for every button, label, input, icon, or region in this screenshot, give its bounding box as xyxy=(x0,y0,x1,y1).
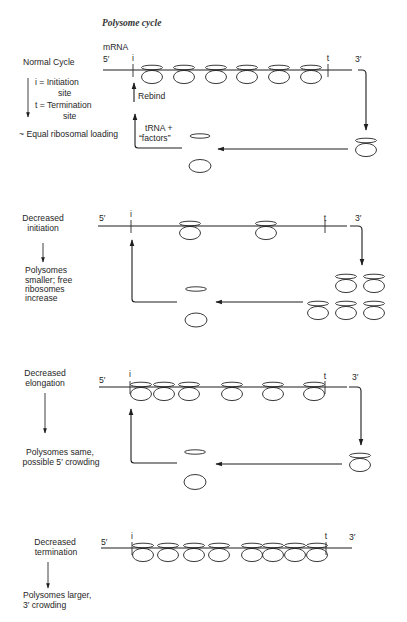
ribosome xyxy=(133,543,154,561)
ribosome xyxy=(307,543,328,561)
small-subunit xyxy=(301,65,322,70)
small-subunit xyxy=(269,65,290,70)
ribosome xyxy=(256,221,277,239)
outcome-line-2: 3′ crowding xyxy=(23,600,66,610)
ribosome xyxy=(263,382,284,400)
ribosome xyxy=(179,382,200,400)
condition-label: Normal Cycle xyxy=(23,57,75,67)
condition-label-cont: elongation xyxy=(25,378,65,388)
large-subunit xyxy=(301,70,322,83)
five-prime-label: 5′ xyxy=(99,213,106,223)
small-subunit xyxy=(222,382,243,387)
condition-label: Decreased xyxy=(24,368,66,378)
small-subunit xyxy=(142,65,163,70)
large-subunit xyxy=(256,226,277,239)
bound-ribosomes xyxy=(142,65,322,83)
ribosome xyxy=(131,382,152,400)
three-prime-label: 3′ xyxy=(349,532,356,542)
large-subunit xyxy=(285,548,306,561)
legend-termination: t = Termination xyxy=(35,100,92,110)
free-small-subunit xyxy=(190,134,210,138)
factors-label: “factors” xyxy=(139,133,171,143)
ribosome xyxy=(304,382,325,400)
mrna-label: mRNA xyxy=(103,42,129,52)
termination-marker-label: t xyxy=(327,53,330,63)
large-subunit xyxy=(174,70,195,83)
outcome-line-1: Polysomes same, xyxy=(26,447,94,457)
large-subunit xyxy=(304,387,325,400)
free-large-subunit xyxy=(189,160,211,173)
large-subunit xyxy=(142,70,163,83)
ribosome xyxy=(174,65,195,83)
recycle-arrow-icon xyxy=(131,409,177,463)
ribosome xyxy=(301,65,322,83)
release-arrow-icon xyxy=(358,70,366,130)
condition-label-cont: initiation xyxy=(27,223,59,233)
large-subunit xyxy=(131,387,152,400)
condition-label: Decreased xyxy=(34,537,76,547)
three-prime-label: 3′ xyxy=(355,213,362,223)
small-subunit xyxy=(285,543,306,548)
legend-initiation-cont: site xyxy=(58,88,72,98)
small-subunit xyxy=(131,382,152,387)
small-subunit xyxy=(206,65,227,70)
large-subunit xyxy=(307,548,328,561)
small-subunit xyxy=(179,382,200,387)
small-subunit xyxy=(256,221,277,226)
legend-termination-cont: site xyxy=(63,111,77,121)
outcome-line-1: Polysomes xyxy=(25,265,67,275)
large-subunit xyxy=(158,548,179,561)
small-subunit xyxy=(307,543,328,548)
rebind-label: Rebind xyxy=(138,91,165,101)
ribosome xyxy=(237,65,258,83)
ribosome xyxy=(308,301,329,319)
large-subunit xyxy=(336,306,357,319)
panel-decreased-termination: Decreased termination Polysomes larger, … xyxy=(23,531,356,610)
ribosome xyxy=(154,382,175,400)
small-subunit xyxy=(209,543,230,548)
ribosome xyxy=(336,301,357,319)
bound-ribosomes xyxy=(133,543,328,561)
large-subunit xyxy=(350,458,371,471)
free-small-subunit xyxy=(186,287,207,291)
large-subunit xyxy=(269,70,290,83)
initiation-marker-label: i xyxy=(130,209,132,219)
small-subunit xyxy=(263,382,284,387)
large-subunit xyxy=(206,70,227,83)
free-large-subunit xyxy=(185,313,207,327)
panel-decreased-elongation: Decreased elongation Polysomes same, pos… xyxy=(22,368,370,490)
three-prime-label: 3′ xyxy=(352,372,359,382)
initiation-marker-label: i xyxy=(132,53,134,63)
large-subunit xyxy=(179,387,200,400)
small-subunit xyxy=(180,221,201,226)
figure-title: Polysome cycle xyxy=(102,18,162,28)
bound-ribosomes xyxy=(131,382,325,400)
free-small-subunit xyxy=(185,450,206,454)
ribosome xyxy=(184,543,205,561)
large-subunit xyxy=(336,279,357,292)
released-ribosomes xyxy=(308,274,385,319)
small-subunit xyxy=(154,382,175,387)
large-subunit xyxy=(364,306,385,319)
ribosome xyxy=(209,543,230,561)
ribosome xyxy=(364,301,385,319)
initiation-marker-label: i xyxy=(129,369,131,379)
three-prime-label: 3′ xyxy=(355,54,362,64)
outcome-label: ~ Equal ribosomal loading xyxy=(19,129,118,139)
ribosome xyxy=(336,274,357,292)
small-subunit xyxy=(242,543,263,548)
outcome-line-4: increase xyxy=(25,293,58,303)
ribosome xyxy=(242,543,263,561)
small-subunit xyxy=(336,301,357,306)
large-subunit xyxy=(356,143,377,156)
small-subunit xyxy=(364,274,385,279)
five-prime-label: 5′ xyxy=(99,375,106,385)
large-subunit xyxy=(237,70,258,83)
small-subunit xyxy=(364,301,385,306)
bound-ribosomes xyxy=(180,221,277,239)
release-arrow-icon xyxy=(350,226,362,265)
ribosome xyxy=(180,221,201,239)
large-subunit xyxy=(154,387,175,400)
small-subunit xyxy=(350,453,371,458)
small-subunit xyxy=(184,543,205,548)
